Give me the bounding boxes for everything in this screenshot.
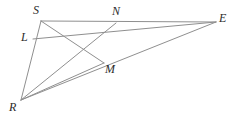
vertex-label-M: M <box>105 63 115 75</box>
geometry-canvas <box>0 0 235 121</box>
vertex-label-R: R <box>9 101 16 113</box>
vertex-label-N: N <box>112 5 120 17</box>
vertex-label-L: L <box>21 31 28 43</box>
segments-group <box>21 21 216 100</box>
segment-RM <box>21 63 104 100</box>
segment-RE <box>21 22 216 100</box>
segment-LE <box>33 22 216 39</box>
vertex-label-E: E <box>219 12 226 24</box>
segment-SM <box>41 21 104 63</box>
segment-SE <box>41 21 216 22</box>
geometry-figure: S N E L M R <box>0 0 235 121</box>
vertex-label-S: S <box>33 4 39 16</box>
